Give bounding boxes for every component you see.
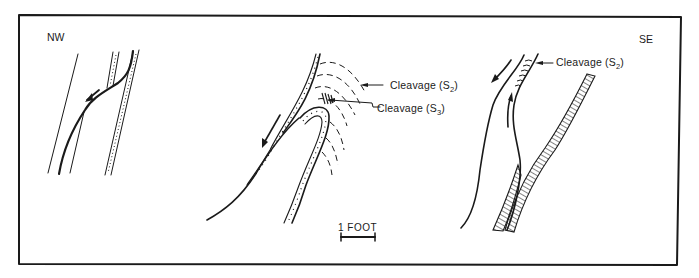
- panel-center: [207, 54, 383, 223]
- cleavage-s2-arcs: [515, 60, 532, 86]
- label-cleavage-s2-right: Cleavage (S2): [556, 56, 624, 71]
- scale-bar: 1 FOOT: [338, 222, 377, 241]
- scale-bar-label: 1 FOOT: [338, 222, 377, 233]
- panel-nw: [48, 50, 139, 175]
- slip-arrow-icon: [264, 115, 280, 143]
- fault-line: [207, 118, 299, 220]
- orientation-label-nw: NW: [47, 31, 65, 43]
- panel-se: [461, 54, 595, 232]
- cleavage-s2-arcs: [315, 62, 365, 175]
- label-cleavage-s2-center: Cleavage (S2): [390, 79, 458, 94]
- label-cleavage-s3-center: Cleavage (S3): [377, 102, 445, 117]
- geologic-cross-section-figure: NW SE: [0, 0, 699, 278]
- orientation-label-se: SE: [639, 33, 653, 45]
- cleavage-s3-ticks: [322, 93, 333, 104]
